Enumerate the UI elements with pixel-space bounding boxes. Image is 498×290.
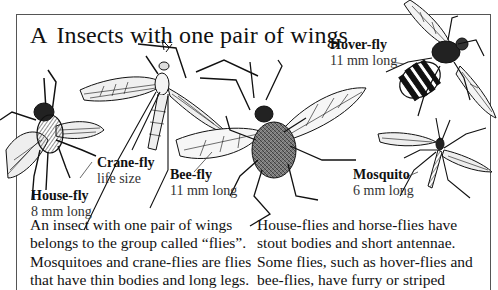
bee-fly-label: Bee-fly 11 mm long (170, 167, 237, 199)
crane-fly-name: Crane-fly (97, 155, 155, 171)
section-title-text: Insects with one pair of wings (56, 22, 348, 48)
section-letter: A (30, 22, 47, 48)
section-title: AInsects with one pair of wings (30, 22, 348, 49)
hover-fly-size: 11 mm long (330, 53, 397, 69)
crane-fly-size: life size (97, 171, 155, 187)
house-fly-name: House-fly (31, 188, 92, 204)
mosquito-size: 6 mm long (353, 183, 414, 199)
bee-fly-name: Bee-fly (170, 167, 237, 183)
mosquito-name: Mosquito (353, 167, 414, 183)
details-paragraph: House-flies and horse-flies have stout b… (257, 216, 487, 290)
hover-fly-name: Hover-fly (330, 37, 397, 53)
intro-paragraph: An insect with one pair of wings belongs… (30, 216, 255, 290)
mosquito-label: Mosquito 6 mm long (353, 167, 414, 199)
crane-fly-label: Crane-fly life size (97, 155, 155, 187)
bee-fly-size: 11 mm long (170, 183, 237, 199)
hover-fly-label: Hover-fly 11 mm long (330, 37, 397, 69)
